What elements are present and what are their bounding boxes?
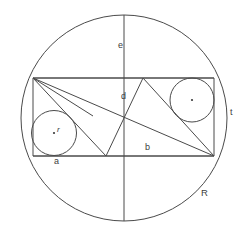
- label-e: e: [118, 41, 123, 50]
- label-b: b: [145, 143, 150, 152]
- zigzag-polyline: [33, 78, 143, 156]
- secondary-diagonal-line: [143, 78, 214, 156]
- inner-circle-right-center-dot: [191, 99, 193, 101]
- label-a: a: [54, 157, 59, 166]
- label-t: t: [230, 108, 233, 117]
- label-r-left: r: [57, 126, 60, 134]
- label-d: d: [121, 92, 126, 101]
- geometry-canvas: [0, 0, 248, 235]
- inner-circle-left-center-dot: [53, 132, 55, 134]
- geometry-figure: e d b a r t R: [0, 0, 248, 235]
- label-R: R: [201, 188, 208, 198]
